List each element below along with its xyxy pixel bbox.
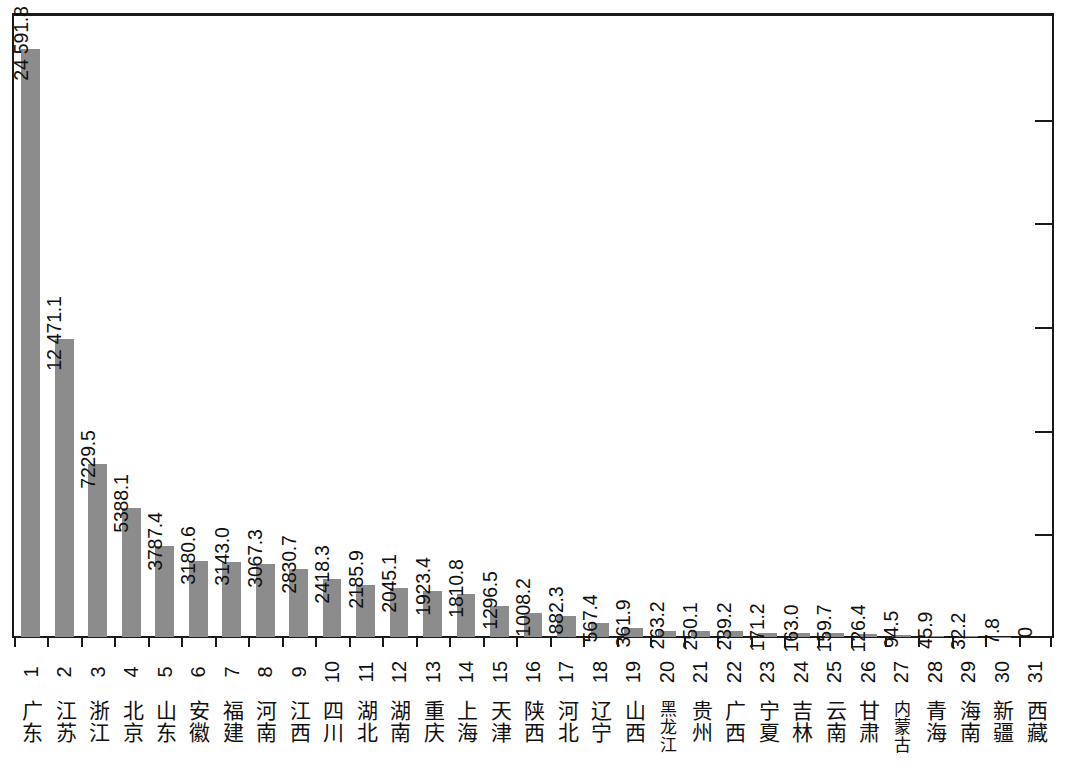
bar-海南: 32.2 <box>959 15 978 637</box>
rank-label: 1 <box>14 648 47 696</box>
x-tick <box>483 638 485 647</box>
x-tick <box>1019 638 1021 647</box>
category-text: 江西 <box>287 700 310 744</box>
category-text: 河北 <box>555 700 578 744</box>
category-text: 宁夏 <box>756 700 779 744</box>
rank-text: 4 <box>121 666 141 677</box>
category-text: 安徽 <box>187 700 210 744</box>
category-label: 贵州 <box>684 698 717 769</box>
rank-text: 27 <box>891 661 911 683</box>
x-axis-ticks <box>14 638 1052 648</box>
x-tick <box>717 638 719 647</box>
rank-text: 16 <box>523 661 543 683</box>
category-text: 上海 <box>455 700 478 744</box>
bar-甘肃: 126.4 <box>858 15 877 637</box>
rank-text: 13 <box>423 661 443 683</box>
category-text: 黑龙江 <box>658 700 676 754</box>
x-tick <box>14 638 16 647</box>
x-tick <box>617 638 619 647</box>
rank-text: 24 <box>791 661 811 683</box>
rank-text: 1 <box>21 666 41 677</box>
category-label: 山西 <box>617 698 650 769</box>
rank-label: 22 <box>717 648 750 696</box>
bar-湖南: 2045.1 <box>390 15 409 637</box>
bar-青海: 45.9 <box>925 15 944 637</box>
category-text: 湖北 <box>354 700 377 744</box>
rank-label: 24 <box>784 648 817 696</box>
bar-广东: 24 591.8 <box>21 15 40 637</box>
bar-value-label: 12 471.1 <box>45 297 65 371</box>
x-tick <box>918 638 920 647</box>
rank-label: 21 <box>684 648 717 696</box>
bar-江苏: 12 471.1 <box>55 15 74 637</box>
rank-text: 12 <box>389 661 409 683</box>
rank-label: 14 <box>449 648 482 696</box>
bar-浙江: 7229.5 <box>88 15 107 637</box>
category-text: 吉林 <box>790 700 813 744</box>
category-label: 重庆 <box>416 698 449 769</box>
x-tick <box>650 638 652 647</box>
rank-text: 30 <box>992 661 1012 683</box>
category-label: 北京 <box>114 698 147 769</box>
bar-新疆: 7.8 <box>992 15 1011 637</box>
rank-label: 28 <box>918 648 951 696</box>
rank-label: 11 <box>349 648 382 696</box>
rank-text: 8 <box>255 666 275 677</box>
category-label: 宁夏 <box>751 698 784 769</box>
category-label: 江苏 <box>47 698 80 769</box>
rank-text: 19 <box>623 661 643 683</box>
category-text: 河南 <box>254 700 277 744</box>
rank-label: 2 <box>47 648 80 696</box>
category-text: 甘肃 <box>856 700 879 744</box>
category-text: 北京 <box>120 700 143 744</box>
x-tick <box>148 638 150 647</box>
rank-text: 7 <box>222 666 242 677</box>
bars-area: 24 591.812 471.17229.55388.13787.43180.6… <box>14 15 1052 637</box>
x-tick <box>684 638 686 647</box>
category-label: 河北 <box>550 698 583 769</box>
rank-text: 26 <box>858 661 878 683</box>
rank-text: 5 <box>155 666 175 677</box>
x-tick <box>248 638 250 647</box>
rank-label: 17 <box>550 648 583 696</box>
rank-label: 7 <box>215 648 248 696</box>
category-text: 广西 <box>723 700 746 744</box>
x-tick <box>114 638 116 647</box>
x-tick <box>47 638 49 647</box>
category-text: 陕西 <box>522 700 545 744</box>
category-label: 西藏 <box>1019 698 1052 769</box>
x-tick <box>952 638 954 647</box>
bar-value-label: 2830.7 <box>279 535 299 593</box>
rank-text: 9 <box>289 666 309 677</box>
x-tick <box>851 638 853 647</box>
bar-value-label: 3067.3 <box>246 529 266 587</box>
x-tick <box>416 638 418 647</box>
rank-label: 15 <box>483 648 516 696</box>
rank-label: 29 <box>952 648 985 696</box>
category-text: 云南 <box>823 700 846 744</box>
rank-label: 8 <box>248 648 281 696</box>
bar-黑龙江: 263.2 <box>658 15 677 637</box>
bar-福建: 3143.0 <box>222 15 241 637</box>
category-text: 海南 <box>957 700 980 744</box>
rank-text: 15 <box>490 661 510 683</box>
category-label-row: 广东江苏浙江北京山东安徽福建河南江西四川湖北湖南重庆上海天津陕西河北辽宁山西黑龙… <box>14 698 1052 769</box>
bar-rect <box>55 339 74 637</box>
bar-value-label: 2185.9 <box>346 550 366 608</box>
category-label: 天津 <box>483 698 516 769</box>
bar-value-label: 5388.1 <box>112 474 132 532</box>
category-text: 青海 <box>923 700 946 744</box>
bar-value-label: 882.3 <box>547 587 567 635</box>
category-label: 湖北 <box>349 698 382 769</box>
bar-value-label: 3787.4 <box>145 512 165 570</box>
category-label: 吉林 <box>784 698 817 769</box>
rank-label: 9 <box>282 648 315 696</box>
bar-吉林: 163.0 <box>791 15 810 637</box>
rank-text: 2 <box>54 666 74 677</box>
rank-label: 19 <box>617 648 650 696</box>
bar-rect <box>21 49 40 637</box>
category-text: 四川 <box>321 700 344 744</box>
bar-value-label: 3180.6 <box>179 527 199 585</box>
rank-text: 11 <box>356 662 376 683</box>
rank-label: 16 <box>516 648 549 696</box>
